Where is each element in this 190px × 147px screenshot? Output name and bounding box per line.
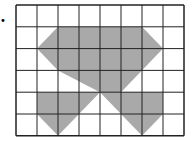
grid-diagram <box>0 0 190 147</box>
